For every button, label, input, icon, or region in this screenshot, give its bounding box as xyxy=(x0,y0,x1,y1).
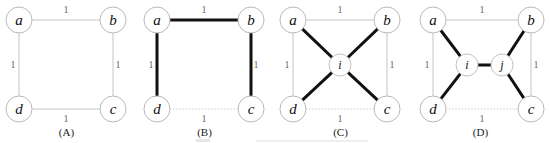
node-label-a: a xyxy=(153,12,161,28)
node-label-i: i xyxy=(338,58,341,72)
edge-b-j xyxy=(508,31,525,57)
edge-weight-b-c: 1 xyxy=(254,59,259,70)
node-a[interactable]: a xyxy=(280,7,306,33)
edge-a-i xyxy=(302,29,332,58)
node-c[interactable]: c xyxy=(100,96,126,122)
edge-weight-a-d: 1 xyxy=(285,59,290,70)
node-a[interactable]: a xyxy=(6,7,32,33)
edge-weight-a-b: 1 xyxy=(64,4,69,15)
node-label-d: d xyxy=(153,101,161,117)
node-label-a: a xyxy=(15,12,23,28)
node-label-c: c xyxy=(384,101,391,117)
node-label-d: d xyxy=(429,101,437,117)
node-b[interactable]: b xyxy=(518,7,544,33)
node-label-a: a xyxy=(429,12,437,28)
panel-a-graph: 1111abcd(A) xyxy=(0,0,137,143)
node-c[interactable]: c xyxy=(238,96,264,122)
node-label-b: b xyxy=(383,12,391,28)
edge-weight-d-c: 1 xyxy=(480,113,485,124)
panel-c-caption: (C) xyxy=(333,126,348,139)
node-label-d: d xyxy=(289,101,297,117)
edge-a-i xyxy=(441,30,461,57)
node-j[interactable]: j xyxy=(491,54,513,76)
panel-c: 1111abcdi(C) xyxy=(274,0,411,143)
node-label-b: b xyxy=(247,12,255,28)
node-label-b: b xyxy=(527,12,535,28)
edge-weight-a-d: 1 xyxy=(149,59,154,70)
panel-b-graph: 1111abcd(B) xyxy=(138,0,275,143)
node-label-d: d xyxy=(15,101,23,117)
figure-root: 1111abcdij(D)1111abcdi(C)1111abcd(B)1111… xyxy=(0,0,551,143)
edge-weight-a-b: 1 xyxy=(338,4,343,15)
node-d[interactable]: d xyxy=(280,96,306,122)
node-i[interactable]: i xyxy=(329,54,351,76)
edge-weight-a-b: 1 xyxy=(202,4,207,15)
panel-c-graph: 1111abcdi(C) xyxy=(274,0,411,143)
edge-weight-b-c: 1 xyxy=(116,59,121,70)
panel-b-caption: (B) xyxy=(197,126,212,139)
node-b[interactable]: b xyxy=(100,7,126,33)
edge-weight-b-c: 1 xyxy=(390,59,395,70)
edge-weight-a-d: 1 xyxy=(425,59,430,70)
node-d[interactable]: d xyxy=(144,96,170,122)
panel-d-graph: 1111abcdij(D) xyxy=(414,0,551,143)
panel-b: 1111abcd(B) xyxy=(138,0,275,143)
node-label-c: c xyxy=(110,101,117,117)
edge-weight-a-d: 1 xyxy=(11,59,16,70)
edge-c-i xyxy=(348,72,378,100)
edge-b-i xyxy=(348,29,378,58)
edge-weight-d-c: 1 xyxy=(338,113,343,124)
edge-weight-d-c: 1 xyxy=(202,113,207,124)
panel-a: 1111abcd(A) xyxy=(0,0,137,143)
node-label-b: b xyxy=(109,12,117,28)
node-c[interactable]: c xyxy=(374,96,400,122)
node-b[interactable]: b xyxy=(238,7,264,33)
edge-weight-b-c: 1 xyxy=(534,59,539,70)
node-d[interactable]: d xyxy=(420,96,446,122)
node-label-c: c xyxy=(528,101,535,117)
edge-d-i xyxy=(441,73,461,99)
panel-d: 1111abcdij(D) xyxy=(414,0,551,143)
panel-a-caption: (A) xyxy=(59,126,75,139)
edge-d-i xyxy=(302,72,332,100)
edge-weight-d-c: 1 xyxy=(64,113,69,124)
node-i[interactable]: i xyxy=(456,54,478,76)
node-label-i: i xyxy=(465,58,468,72)
node-d[interactable]: d xyxy=(6,96,32,122)
edge-c-j xyxy=(508,74,524,99)
edge-weight-a-b: 1 xyxy=(480,4,485,15)
panel-d-caption: (D) xyxy=(473,126,489,139)
node-b[interactable]: b xyxy=(374,7,400,33)
node-label-c: c xyxy=(248,101,255,117)
node-label-a: a xyxy=(289,12,297,28)
node-a[interactable]: a xyxy=(144,7,170,33)
node-c[interactable]: c xyxy=(518,96,544,122)
node-a[interactable]: a xyxy=(420,7,446,33)
